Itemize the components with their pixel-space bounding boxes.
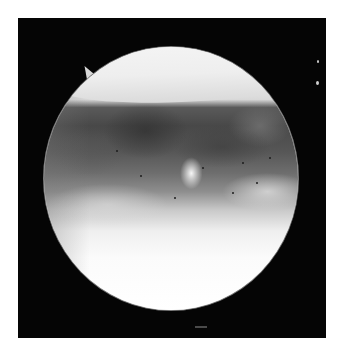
tissue-speckle: [232, 192, 234, 194]
stray-highlight: [316, 81, 319, 85]
tissue-speckle: [174, 197, 176, 199]
stray-highlight: [317, 60, 319, 63]
tissue-speckle: [202, 167, 204, 169]
tissue-speckle: [256, 182, 258, 184]
tissue-speckle: [116, 150, 118, 152]
image-canvas: [0, 0, 345, 353]
black-frame: [18, 18, 326, 338]
bottom-mark: [195, 326, 207, 328]
tissue-speckle: [269, 157, 271, 159]
tissue-speckle: [242, 162, 244, 164]
endoscope-view: [44, 47, 298, 310]
tissue-speckle: [140, 175, 142, 177]
